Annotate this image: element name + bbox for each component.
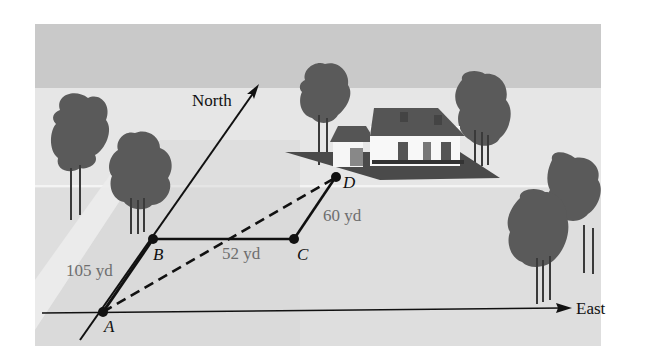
distance-label-c-d: 60 yd <box>323 207 361 224</box>
east-axis-label: East <box>576 300 605 317</box>
point-b-label: B <box>153 246 163 263</box>
displacement-diagram <box>0 0 649 354</box>
point-a-label: A <box>104 318 114 335</box>
point-a-marker <box>98 307 108 317</box>
north-axis-label: North <box>192 92 232 109</box>
point-b-marker <box>148 234 158 244</box>
point-c-label: C <box>297 246 308 263</box>
distance-label-a-b: 105 yd <box>66 262 113 279</box>
point-d-label: D <box>343 174 355 191</box>
distance-label-b-c: 52 yd <box>222 245 260 262</box>
point-c-marker <box>289 234 299 244</box>
point-d-marker <box>331 172 341 182</box>
